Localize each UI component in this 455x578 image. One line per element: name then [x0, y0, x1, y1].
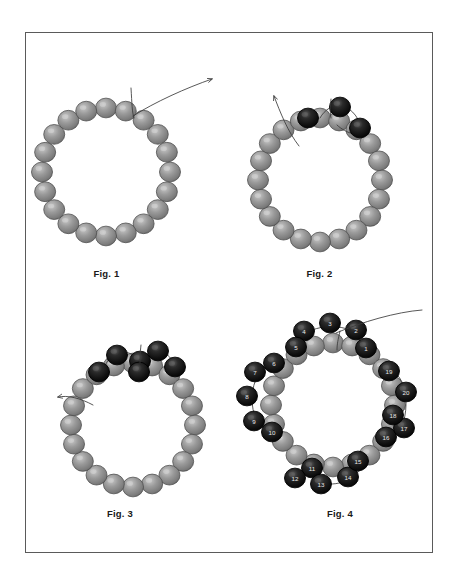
black-bead-numbered: 8	[237, 386, 258, 406]
black-bead-numbered: 13	[311, 474, 332, 494]
black-bead-numbered: 19	[379, 361, 400, 381]
black-bead-numbered: 18	[383, 405, 404, 425]
bead-number-label: 13	[318, 481, 325, 488]
black-bead-numbered: 15	[348, 451, 369, 471]
figure-2-caption: Fig. 2	[213, 268, 426, 279]
gray-bead	[329, 229, 350, 249]
bead-number-label: 5	[294, 344, 298, 351]
gray-bead	[259, 207, 280, 227]
gray-bead	[123, 477, 144, 497]
black-bead-numbered: 7	[245, 362, 266, 382]
gray-bead	[368, 189, 389, 209]
gray-bead	[76, 101, 97, 121]
gray-bead	[142, 474, 163, 494]
black-bead	[165, 357, 186, 377]
gray-bead	[323, 333, 344, 353]
gray-bead	[261, 395, 282, 415]
bead-number-label: 14	[345, 474, 352, 481]
bead-number-label: 16	[383, 434, 390, 441]
gray-bead	[368, 151, 389, 171]
figure-2-artwork	[248, 96, 393, 252]
gray-bead	[44, 200, 65, 220]
black-bead	[107, 345, 128, 365]
black-bead	[129, 362, 150, 382]
bead-number-label: 3	[328, 320, 332, 327]
bead-number-label: 19	[386, 368, 393, 375]
gray-bead	[251, 151, 272, 171]
gray-bead	[372, 170, 393, 190]
gray-bead	[264, 376, 285, 396]
figure-4-artwork: 1234567891011121314151617181920	[237, 310, 423, 494]
bead-number-label: 11	[309, 465, 316, 472]
beading-diagram-canvas: 1234567891011121314151617181920	[0, 0, 455, 578]
black-bead-numbered: 9	[244, 411, 265, 431]
bead-number-label: 8	[245, 393, 249, 400]
gray-bead	[251, 189, 272, 209]
bead-number-label: 20	[403, 389, 410, 396]
gray-bead	[35, 182, 56, 202]
gray-bead	[72, 452, 93, 472]
gray-bead	[64, 434, 85, 454]
bead-number-label: 4	[302, 328, 306, 335]
black-bead-numbered: 1	[356, 338, 377, 358]
black-bead-numbered: 6	[264, 353, 285, 373]
bead-number-label: 12	[292, 475, 299, 482]
black-bead	[330, 97, 351, 117]
gray-bead	[160, 162, 181, 182]
gray-bead	[185, 415, 206, 435]
figure-3-artwork	[58, 341, 206, 497]
bead-number-label: 18	[390, 412, 397, 419]
black-bead-numbered: 3	[320, 313, 341, 333]
bead-number-label: 17	[401, 425, 408, 432]
figure-1-artwork	[32, 79, 213, 246]
bead-number-label: 6	[272, 360, 276, 367]
gray-bead	[248, 170, 269, 190]
gray-bead	[115, 223, 136, 243]
gray-bead	[35, 142, 56, 162]
black-bead	[148, 341, 169, 361]
black-bead-numbered: 20	[396, 382, 417, 402]
bead-number-label: 7	[253, 369, 257, 376]
gray-bead	[181, 396, 202, 416]
black-bead-numbered: 5	[286, 337, 307, 357]
figure-4-caption: Fig. 4	[240, 508, 440, 519]
bead-number-label: 15	[355, 458, 362, 465]
black-bead	[89, 362, 110, 382]
black-bead-numbered: 12	[285, 468, 306, 488]
gray-bead	[32, 162, 53, 182]
gray-bead	[61, 415, 82, 435]
gray-bead	[156, 182, 177, 202]
bead-number-label: 10	[269, 429, 276, 436]
figure-1-caption: Fig. 1	[0, 268, 213, 279]
gray-bead	[310, 232, 331, 252]
gray-bead	[173, 379, 194, 399]
figure-3-caption: Fig. 3	[0, 508, 240, 519]
instruction-sheet-page: 1234567891011121314151617181920 Fig. 1 F…	[0, 0, 455, 578]
gray-bead	[156, 142, 177, 162]
gray-bead	[96, 98, 117, 118]
gray-bead	[181, 434, 202, 454]
black-bead	[350, 118, 371, 138]
gray-bead	[64, 396, 85, 416]
bead-number-label: 2	[354, 327, 358, 334]
gray-bead	[147, 125, 168, 145]
black-bead-numbered: 10	[262, 422, 283, 442]
black-bead	[298, 108, 319, 128]
gray-bead	[96, 226, 117, 246]
bead-number-label: 9	[252, 418, 256, 425]
bead-number-label: 1	[364, 345, 368, 352]
